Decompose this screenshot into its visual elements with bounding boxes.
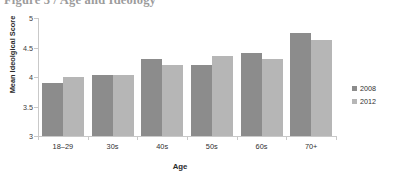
bar-group <box>42 18 84 136</box>
y-axis-tick-label: 3.5 <box>3 103 33 112</box>
x-axis-title: Age <box>0 162 360 171</box>
bar-2008-60s <box>241 53 262 136</box>
bar-2008-18–29 <box>42 83 63 136</box>
x-axis-tick <box>237 136 238 140</box>
figure-caption: Figure 3 / Age and Ideology <box>4 0 156 7</box>
y-axis-tick-label: 4.5 <box>3 44 33 53</box>
y-axis-tick-label: 3 <box>3 132 33 141</box>
bar-2012-70+ <box>311 40 332 136</box>
chart-legend: 20082012 <box>352 82 394 108</box>
bar-2008-30s <box>92 75 113 136</box>
bar-2008-40s <box>141 59 162 136</box>
bar-2012-60s <box>262 59 283 136</box>
bar-2012-30s <box>113 75 134 136</box>
bar-2012-50s <box>212 56 233 136</box>
bar-2012-40s <box>162 65 183 136</box>
legend-item-2012[interactable]: 2012 <box>352 95 394 108</box>
x-axis-tick <box>88 136 89 140</box>
y-axis-tick-label: 5 <box>3 14 33 23</box>
legend-item-2008[interactable]: 2008 <box>352 82 394 95</box>
legend-label: 2008 <box>360 85 376 92</box>
legend-swatch-icon <box>352 99 357 104</box>
plot-area <box>38 18 336 136</box>
x-axis-tick <box>187 136 188 140</box>
bar-group <box>92 18 134 136</box>
bar-group <box>290 18 332 136</box>
x-axis-tick <box>38 136 39 140</box>
bar-2008-70+ <box>290 33 311 136</box>
bar-2008-50s <box>191 65 212 136</box>
x-axis-tick <box>336 136 337 140</box>
y-axis-tick-label: 4 <box>3 73 33 82</box>
y-axis-title: Mean Ideolgical Score <box>8 15 17 95</box>
x-axis-tick <box>286 136 287 140</box>
x-axis-label: 70+ <box>276 142 346 151</box>
bar-group <box>241 18 283 136</box>
legend-swatch-icon <box>352 86 357 91</box>
bar-2012-18–29 <box>63 77 84 136</box>
bar-group <box>191 18 233 136</box>
x-axis-tick <box>137 136 138 140</box>
bar-chart: Mean Ideolgical Score 54.543.53 18–2930s… <box>0 12 394 178</box>
bar-group <box>141 18 183 136</box>
legend-label: 2012 <box>360 98 376 105</box>
